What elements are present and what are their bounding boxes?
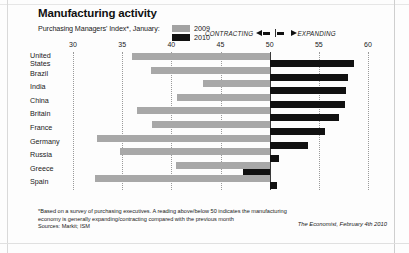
category-label-brazil: Brazil <box>30 69 48 78</box>
bar-2009-united-states <box>132 53 270 60</box>
frame-left-rule <box>7 0 8 253</box>
gridline-45 <box>221 52 222 190</box>
frame-right-rule <box>394 0 395 253</box>
bar-2010-france <box>270 128 325 135</box>
gridline-30 <box>73 52 74 190</box>
bar-2009-china <box>177 94 269 101</box>
bar-2010-india <box>270 87 347 94</box>
category-label-britain: Britain <box>30 109 50 118</box>
arrow-right-tail-icon <box>277 32 284 34</box>
x-tick-label-60: 60 <box>364 41 372 48</box>
bar-2010-brazil <box>270 74 349 81</box>
bar-2009-britain <box>137 107 270 114</box>
contracting-label: CONTRACTING <box>205 30 253 37</box>
x-tick-label-55: 55 <box>315 41 323 48</box>
x-tick-label-50: 50 <box>266 41 274 48</box>
legend-swatch-2009-icon <box>172 25 190 32</box>
category-label-greece: Greece <box>30 164 54 173</box>
arrow-left-icon <box>256 30 262 36</box>
gridline-40 <box>171 52 172 190</box>
category-label-germany: Germany <box>30 137 60 146</box>
footnote-line-2: economy is generally expanding/contracti… <box>38 215 287 223</box>
category-label-russia: Russia <box>30 150 52 159</box>
gridline-35 <box>122 52 123 190</box>
category-label-china: China <box>30 96 49 105</box>
bar-2010-britain <box>270 114 340 121</box>
chart-subtitle: Purchasing Managers' Index*, January: <box>38 24 160 33</box>
category-label-india: India <box>30 82 46 91</box>
bar-2009-india <box>203 80 270 87</box>
banner-divider <box>275 29 276 37</box>
gridline-60 <box>368 52 369 190</box>
x-tick-label-35: 35 <box>118 41 126 48</box>
arrow-left-tail-icon <box>263 32 270 34</box>
gridline-50 <box>270 52 271 190</box>
footnote-line-1: *Based on a survey of purchasing executi… <box>38 207 287 215</box>
bar-2009-france <box>152 121 270 128</box>
bar-2009-brazil <box>151 67 270 74</box>
x-tick-label-45: 45 <box>217 41 225 48</box>
credit-label: The Economist, February 4th 2010 <box>298 221 387 227</box>
bar-2010-united-states <box>270 60 355 67</box>
bar-2010-russia <box>270 155 279 162</box>
bar-2010-germany <box>270 142 308 149</box>
bar-2009-russia <box>120 148 269 155</box>
category-label-spain: Spain <box>30 177 48 186</box>
frame-bottom-rule <box>0 243 409 244</box>
chart-figure: Manufacturing activity Purchasing Manage… <box>0 0 409 253</box>
baseline-50 <box>270 52 271 190</box>
bar-2010-spain <box>270 182 277 189</box>
sources-label: Sources: Markit; ISM <box>38 223 90 229</box>
expanding-label: EXPANDING <box>297 30 335 37</box>
category-label-france: France <box>30 123 52 132</box>
x-tick-label-40: 40 <box>167 41 175 48</box>
footnote: *Based on a survey of purchasing executi… <box>38 207 287 223</box>
category-label-united-states: UnitedStates <box>30 52 51 68</box>
legend-swatch-2010-icon <box>172 34 190 41</box>
gridline-55 <box>319 52 320 190</box>
bar-2009-greece <box>176 162 269 169</box>
direction-banner: CONTRACTINGEXPANDING <box>205 29 336 39</box>
bar-2010-china <box>270 101 346 108</box>
bar-2010-greece <box>243 169 270 176</box>
bar-2009-germany <box>97 135 270 142</box>
bar-2009-spain <box>95 175 270 182</box>
chart-title: Manufacturing activity <box>38 7 157 19</box>
x-tick-label-30: 30 <box>69 41 77 48</box>
frame-top-rule <box>0 4 409 5</box>
